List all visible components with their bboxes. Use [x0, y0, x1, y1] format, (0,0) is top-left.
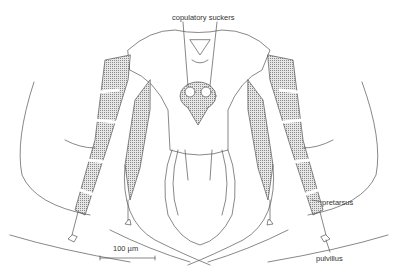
copulatory-suckers-label: copulatory suckers [172, 13, 235, 22]
pretarsus-label: pretarsus [322, 198, 353, 207]
mite-illustration [0, 0, 395, 273]
scale-bar-label: 100 µm [113, 244, 138, 253]
pulvillus-label: pulvillus [316, 254, 343, 263]
